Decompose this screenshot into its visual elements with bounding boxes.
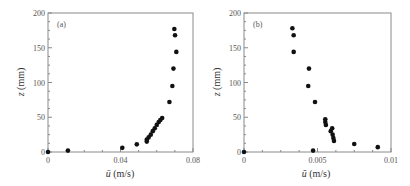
data-point — [352, 142, 357, 147]
data-point — [174, 50, 179, 55]
y-axis-title-b: z (mm) — [211, 68, 223, 98]
x-tick-label: 0.04 — [114, 156, 128, 165]
data-points-b — [242, 26, 380, 154]
y-tick-label: 0 — [41, 148, 45, 157]
y-tick-label: 150 — [33, 44, 45, 53]
x-tick-label: 0.08 — [186, 156, 200, 165]
data-point — [173, 33, 178, 38]
data-point — [120, 146, 125, 151]
x-axis-title-b: ũ (m/s) — [302, 168, 331, 180]
x-tick-label: 0.005 — [309, 156, 327, 165]
y-tick-label: 50 — [37, 113, 45, 122]
data-point — [135, 142, 140, 147]
x-tick-label: 0 — [242, 156, 246, 165]
y-tick-label: 0 — [237, 148, 241, 157]
y-tick-label: 200 — [229, 9, 241, 18]
data-point — [311, 148, 316, 153]
data-point — [171, 66, 176, 71]
data-point — [172, 27, 177, 32]
y-tick-label: 150 — [229, 44, 241, 53]
panel-label-a: (a) — [57, 20, 66, 29]
y-tick-label: 100 — [229, 79, 241, 88]
y-tick-label: 200 — [33, 9, 45, 18]
data-point — [167, 100, 172, 105]
data-point — [242, 150, 247, 155]
x-tick-label: 0 — [46, 156, 50, 165]
data-point — [66, 148, 71, 153]
panel-label-b: (b) — [253, 20, 263, 29]
x-tick-label: 0.01 — [384, 156, 398, 165]
y-tick-label: 50 — [233, 113, 241, 122]
ticks-b: 05010015020000.0050.01 — [229, 9, 398, 165]
data-point — [170, 84, 175, 89]
data-point — [323, 117, 328, 122]
data-points-a — [46, 27, 179, 155]
panel-a: 05010015020000.040.08 (a) ū (m/s) z (mm) — [15, 9, 200, 180]
figure: 05010015020000.040.08 (a) ū (m/s) z (mm)… — [0, 0, 410, 186]
ticks-a: 05010015020000.040.08 — [33, 9, 200, 165]
plot-frame-a — [48, 13, 193, 152]
panel-b: 05010015020000.0050.01 (b) ũ (m/s) z (mm… — [211, 9, 398, 180]
data-point — [307, 66, 312, 71]
y-tick-label: 100 — [33, 79, 45, 88]
data-point — [291, 50, 296, 55]
data-point — [160, 116, 165, 121]
data-point — [375, 145, 380, 150]
data-point — [313, 100, 318, 105]
data-point — [290, 26, 295, 31]
data-point — [306, 84, 311, 89]
data-point — [291, 33, 296, 38]
data-point — [46, 150, 51, 155]
data-point — [330, 126, 335, 131]
x-axis-title-a: ū (m/s) — [106, 168, 135, 180]
y-axis-title-a: z (mm) — [15, 68, 27, 98]
plot-frame-b — [244, 13, 391, 152]
